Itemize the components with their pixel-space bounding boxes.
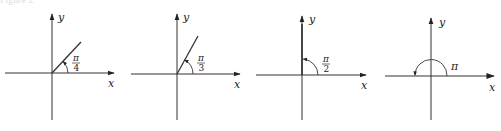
angle-numerator: π <box>322 54 330 64</box>
y-axis-label: y <box>438 16 446 29</box>
angle-denominator: 3 <box>199 63 205 73</box>
x-axis-label: x <box>489 81 496 94</box>
angle-label: π <box>450 60 459 73</box>
panel-pi: y x π <box>385 16 496 120</box>
angle-numerator: π <box>197 53 205 63</box>
angle-arc <box>304 59 319 75</box>
x-axis-label: x <box>108 77 115 90</box>
y-axis-label: y <box>182 11 190 24</box>
angle-denominator: 2 <box>324 64 330 74</box>
x-axis-label: x <box>361 79 368 92</box>
angle-denominator: 4 <box>74 63 80 73</box>
terminal-ray <box>177 36 198 74</box>
angle-label: π 2 <box>322 54 330 74</box>
panel-pi-over-2: y x π 2 <box>256 13 368 120</box>
angle-numerator: π <box>72 53 80 63</box>
angle-label: π 3 <box>197 53 205 73</box>
panel-pi-over-4: y x π 4 <box>5 11 115 120</box>
x-axis-label: x <box>234 78 241 91</box>
angle-arc <box>63 62 68 73</box>
y-axis-label: y <box>308 13 316 26</box>
panel-pi-over-3: y x π 3 <box>131 11 241 120</box>
angle-diagrams: y x π 4 y x π 3 y x π 2 <box>0 0 501 131</box>
y-axis-label: y <box>57 11 65 24</box>
angle-arc <box>185 60 193 74</box>
angle-label: π 4 <box>72 53 80 73</box>
